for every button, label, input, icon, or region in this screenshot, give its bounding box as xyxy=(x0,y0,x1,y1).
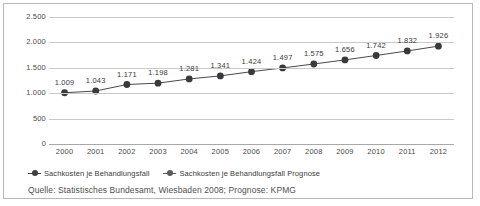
chart-screenshot: 05001.0001.5002.0002.500 1.0091.0431.171… xyxy=(0,0,480,206)
chart-legend: Sachkosten je BehandlungsfallSachkosten … xyxy=(28,166,320,180)
legend-item[interactable]: Sachkosten je Behandlungsfall xyxy=(28,169,149,178)
x-axis-tick-label: 2009 xyxy=(336,147,354,156)
x-axis-tick-label: 2003 xyxy=(149,147,167,156)
data-point-label: 1.497 xyxy=(273,53,293,62)
x-axis-tick-label: 2007 xyxy=(274,147,292,156)
legend-item-label: Sachkosten je Behandlungsfall xyxy=(44,169,149,178)
x-axis-tick-label: 2008 xyxy=(305,147,323,156)
data-point-label: 1.656 xyxy=(335,45,355,54)
legend-item[interactable]: Sachkosten je Behandlungsfall Prognose xyxy=(163,169,320,178)
y-axis-tick-label: 0 xyxy=(6,139,46,148)
y-axis: 05001.0001.5002.0002.500 xyxy=(4,17,46,144)
gridline xyxy=(49,93,454,94)
legend-marker-icon xyxy=(28,169,41,178)
data-point-marker xyxy=(342,56,349,63)
gridline xyxy=(49,119,454,120)
gridline xyxy=(49,68,454,69)
x-axis: 2000200120022003200420052006200720082009… xyxy=(49,147,454,159)
data-point-marker xyxy=(248,68,255,75)
data-point-label: 1.832 xyxy=(397,36,417,45)
data-point-marker xyxy=(123,81,130,88)
y-axis-tick-label: 2.000 xyxy=(6,37,46,46)
y-axis-tick-label: 1.000 xyxy=(6,88,46,97)
series-line-chart xyxy=(49,17,454,144)
x-axis-tick-label: 2002 xyxy=(118,147,136,156)
data-point-label: 1.043 xyxy=(86,76,106,85)
data-point-marker xyxy=(435,43,442,50)
x-axis-tick-label: 2000 xyxy=(56,147,74,156)
x-axis-tick-label: 2012 xyxy=(430,147,448,156)
data-point-label: 1.424 xyxy=(242,57,262,66)
source-note: Quelle: Statistisches Bundesamt, Wiesbad… xyxy=(28,185,296,195)
data-point-label: 1.742 xyxy=(366,41,386,50)
y-axis-tick-label: 500 xyxy=(6,114,46,123)
data-point-label: 1.009 xyxy=(55,78,75,87)
gridline xyxy=(49,42,454,43)
legend-marker-icon xyxy=(163,169,176,178)
gridline xyxy=(49,17,454,18)
data-point-label: 1.198 xyxy=(148,68,168,77)
chart-card: 05001.0001.5002.0002.500 1.0091.0431.171… xyxy=(3,3,473,199)
data-point-label: 1.171 xyxy=(117,70,137,79)
x-axis-tick-label: 2010 xyxy=(367,147,385,156)
y-axis-tick-label: 1.500 xyxy=(6,63,46,72)
gridline xyxy=(49,144,454,145)
x-axis-tick-label: 2011 xyxy=(399,147,416,156)
x-axis-tick-label: 2006 xyxy=(243,147,261,156)
data-point-label: 1.926 xyxy=(429,31,449,40)
plot-area: 1.0091.0431.1711.1981.2811.3411.4241.497… xyxy=(49,17,454,144)
x-axis-tick-label: 2005 xyxy=(212,147,230,156)
data-point-marker xyxy=(217,72,224,79)
legend-item-label: Sachkosten je Behandlungsfall Prognose xyxy=(179,169,320,178)
data-point-label: 1.575 xyxy=(304,49,324,58)
y-axis-tick-label: 2.500 xyxy=(6,12,46,21)
data-point-marker xyxy=(155,80,162,87)
data-point-label: 1.341 xyxy=(210,61,230,70)
data-point-marker xyxy=(404,48,411,55)
x-axis-tick-label: 2004 xyxy=(180,147,198,156)
data-point-marker xyxy=(186,76,193,83)
data-point-marker xyxy=(310,61,317,68)
data-point-label: 1.281 xyxy=(179,64,199,73)
data-point-marker xyxy=(373,52,380,59)
x-axis-tick-label: 2001 xyxy=(87,147,105,156)
